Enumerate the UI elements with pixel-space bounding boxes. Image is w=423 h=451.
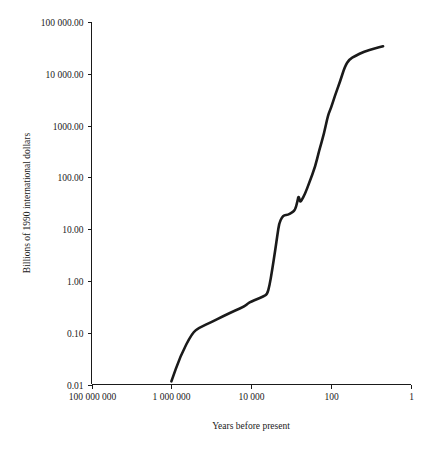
y-axis-title: Billions of 1990 international dollars — [22, 133, 32, 274]
x-tick-label: 100 — [324, 392, 339, 402]
chart-container: 0.010.101.0010.00100.001000.0010 000.001… — [0, 0, 423, 451]
y-tick-label: 0.10 — [67, 329, 84, 339]
y-tick-labels: 0.010.101.0010.00100.001000.0010 000.001… — [41, 18, 84, 391]
y-tick-label: 1000.00 — [53, 122, 84, 132]
x-tick-label: 1 000 000 — [153, 392, 191, 402]
x-tick-label: 1 — [409, 392, 414, 402]
data-series-group — [171, 46, 383, 381]
y-tick-label: 100 000.00 — [41, 18, 84, 28]
x-tick-label: 100 000 000 — [69, 392, 117, 402]
x-tick-labels: 100 000 0001 000 00010 0001001 — [69, 392, 414, 402]
series-line-0 — [171, 46, 383, 381]
y-tick-label: 1.00 — [67, 277, 84, 287]
x-axis-title: Years before present — [212, 421, 290, 431]
x-tick-marks — [93, 385, 412, 390]
y-tick-label: 10.00 — [62, 225, 84, 235]
y-tick-label: 0.01 — [67, 381, 84, 391]
y-tick-marks — [88, 23, 92, 386]
gdp-log-log-line-chart: 0.010.101.0010.00100.001000.0010 000.001… — [0, 0, 423, 451]
x-tick-label: 10 000 — [238, 392, 264, 402]
y-tick-label: 100.00 — [57, 173, 83, 183]
plot-area: 0.010.101.0010.00100.001000.0010 000.001… — [41, 18, 414, 402]
y-tick-label: 10 000.00 — [46, 70, 84, 80]
